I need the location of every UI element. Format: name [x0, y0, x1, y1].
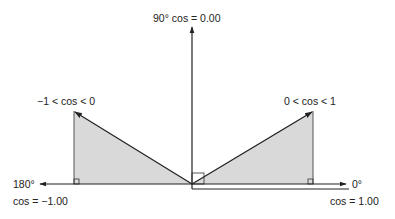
label-left-angle: 180° [13, 178, 35, 190]
cosine-diagram: 90° cos = 0.00 −1 < cos < 0 0 < cos < 1 … [0, 0, 395, 219]
label-left-vector: −1 < cos < 0 [37, 95, 95, 107]
label-top: 90° cos = 0.00 [153, 12, 221, 24]
label-right-cos: cos = 1.00 [330, 195, 379, 207]
label-right-angle: 0° [352, 178, 362, 190]
label-right-vector: 0 < cos < 1 [284, 95, 336, 107]
label-left-cos: cos = −1.00 [13, 195, 68, 207]
